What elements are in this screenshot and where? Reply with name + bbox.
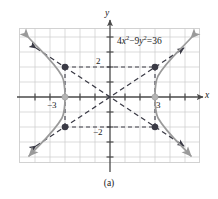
point-neg3-2 [62, 64, 69, 71]
vertex-neg3-0 [62, 94, 68, 100]
hyperbola-figure: 4x2−9y2=36 y x 2 −2 −3 3 (a) [0, 0, 218, 199]
point-3-neg2 [152, 124, 159, 131]
point-neg3-neg2 [62, 124, 69, 131]
equation-rhs: 36 [152, 36, 162, 46]
y-tick-label-2: 2 [96, 57, 101, 66]
y-tick-label-neg2: −2 [93, 128, 103, 137]
y-axis-label: y [105, 9, 109, 19]
x-tick-label-neg3: −3 [47, 101, 57, 110]
hyperbola-plot [0, 0, 218, 199]
x-axis-label: x [205, 91, 209, 101]
x-tick-label-3: 3 [156, 101, 161, 110]
figure-caption: (a) [0, 178, 218, 188]
equation-label: 4x2−9y2=36 [117, 37, 162, 47]
point-3-2 [152, 64, 159, 71]
